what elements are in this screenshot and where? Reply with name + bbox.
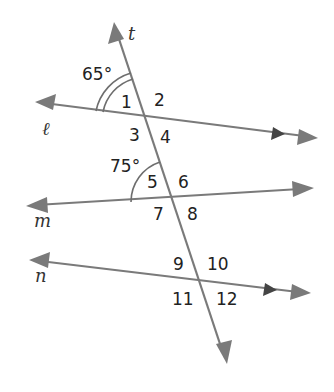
angle-label-65: 65° — [82, 64, 112, 84]
angle-5: 5 — [147, 172, 158, 192]
angle-2: 2 — [154, 90, 165, 110]
arrowhead-right-icon — [297, 129, 318, 145]
line-l — [35, 94, 318, 145]
label-m: m — [34, 210, 51, 231]
arrowhead-right-icon — [292, 181, 314, 197]
angle-3: 3 — [129, 125, 140, 145]
arrowhead-down-icon — [216, 340, 232, 364]
angle-10: 10 — [207, 254, 229, 274]
angle-12: 12 — [216, 289, 238, 309]
diagram-canvas: t ℓ m n 65° 75° 1 2 3 4 5 6 7 8 9 10 11 … — [0, 0, 334, 392]
arrowhead-up-icon — [108, 22, 124, 44]
angle-9: 9 — [173, 254, 184, 274]
parallel-marker-icon — [263, 283, 277, 296]
arrowhead-left-icon — [35, 94, 56, 110]
line-t — [108, 22, 232, 364]
line-m — [26, 181, 314, 213]
angle-11: 11 — [172, 289, 194, 309]
label-l: ℓ — [42, 118, 50, 139]
angle-7: 7 — [153, 204, 164, 224]
angle-4: 4 — [160, 127, 171, 147]
angle-label-75: 75° — [110, 156, 140, 176]
parallel-marker-icon — [271, 127, 285, 140]
line-n — [29, 252, 311, 300]
angle-6: 6 — [178, 172, 189, 192]
label-t: t — [128, 23, 136, 44]
angle-1: 1 — [121, 92, 132, 112]
arrowhead-right-icon — [290, 284, 311, 300]
angle-8: 8 — [187, 204, 198, 224]
label-n: n — [35, 265, 47, 286]
